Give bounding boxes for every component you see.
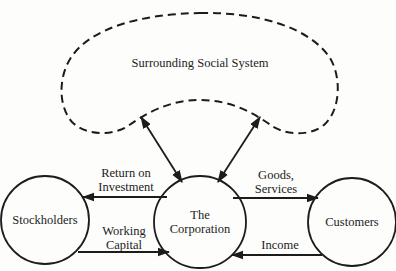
goods-services-line2: Services <box>244 182 308 196</box>
corporation-label-line2: Corporation <box>150 222 250 236</box>
return-on-investment-line1: Return on <box>86 166 166 180</box>
stockholders-label: Stockholders <box>1 213 89 227</box>
customers-label: Customers <box>308 215 396 229</box>
working-capital-line1: Working <box>92 224 156 238</box>
goods-services-line1: Goods, <box>244 168 308 182</box>
working-capital-label: Working Capital <box>92 224 156 252</box>
social-system-label: Surrounding Social System <box>120 56 280 70</box>
return-on-investment-label: Return on Investment <box>86 166 166 194</box>
corporation-label: The Corporation <box>150 208 250 236</box>
return-on-investment-line2: Investment <box>86 180 166 194</box>
corporation-label-line1: The <box>150 208 250 222</box>
working-capital-line2: Capital <box>92 238 156 252</box>
corporation-stakeholder-diagram: Surrounding Social System Stockholders T… <box>0 0 396 271</box>
goods-services-label: Goods, Services <box>244 168 308 196</box>
social-system-cloud <box>62 13 338 133</box>
income-label: Income <box>252 238 308 252</box>
